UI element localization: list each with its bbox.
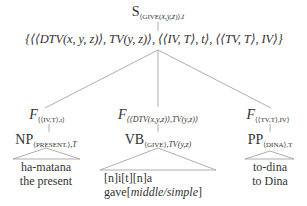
vb-subscript-word: ⟨GIVE⟩	[144, 141, 166, 149]
pp-leaf-gloss: to Dina	[252, 174, 288, 188]
root-subscript: ⟨GIVE(x,y,z)⟩,t	[140, 12, 185, 21]
pp-label: PP	[248, 132, 264, 147]
functor-left-subscript: ⟨⟨IV,T⟩,t⟩	[38, 116, 65, 124]
vb-leaf: [n]i[t][n]a gave[middle/simple]	[104, 171, 202, 199]
functor-left-label: F	[29, 107, 38, 122]
pp-node: PP⟨DINA⟩,T	[248, 133, 293, 149]
pp-leaf: to-dina to Dina	[252, 160, 288, 188]
vb-leaf-triangle	[100, 148, 216, 170]
pp-subscript-word: ⟨DINA⟩	[263, 141, 286, 149]
vb-label: VB	[125, 132, 144, 147]
np-leaf-gloss: the present	[20, 174, 72, 188]
vb-leaf-gloss: gave[middle/simple]	[104, 185, 202, 199]
type-set: {⟨⟨DTV(x, y, z)⟩, TV(y, z)⟩, ⟨⟨IV, T⟩, t…	[25, 33, 283, 46]
vb-leaf-hebrew: [n]i[t][n]a	[104, 171, 202, 185]
root-node: S⟨GIVE(x,y,z)⟩,t	[132, 5, 184, 21]
np-leaf-hebrew: ha-matana	[20, 160, 72, 174]
np-node: NP⟨PRESENT.⟩,T	[15, 133, 76, 149]
np-label: NP	[15, 132, 33, 147]
functor-middle-label: F	[118, 107, 127, 122]
np-leaf-triangle	[13, 148, 80, 159]
pp-subscript-type: ,T	[286, 141, 292, 149]
edge-to-left-functor	[45, 50, 158, 108]
root-label: S	[132, 4, 140, 19]
functor-left: F⟨⟨IV,T⟩,t⟩	[29, 108, 65, 124]
np-leaf: ha-matana the present	[20, 160, 72, 188]
functor-middle-subscript: ⟨⟨DTV(x,y,z)⟩,TV(y,z)⟩	[126, 115, 198, 124]
vb-node: VB⟨GIVE⟩,TV(y,z)	[125, 133, 192, 149]
pp-leaf-triangle	[245, 151, 294, 159]
functor-middle: F⟨⟨DTV(x,y,z)⟩,TV(y,z)⟩	[118, 108, 198, 124]
np-subscript-type: ,T	[70, 140, 76, 149]
vb-subscript-type: ,TV(y,z)	[166, 140, 191, 149]
np-subscript-word: ⟨PRESENT.⟩	[33, 141, 70, 149]
pp-leaf-hebrew: to-dina	[252, 160, 288, 174]
functor-right-label: F	[246, 107, 255, 122]
functor-right: F⟨⟨TV,T⟩,IV⟩	[246, 108, 289, 124]
edge-to-right-functor	[158, 50, 271, 108]
functor-right-subscript: ⟨⟨TV,T⟩,IV⟩	[255, 116, 290, 124]
